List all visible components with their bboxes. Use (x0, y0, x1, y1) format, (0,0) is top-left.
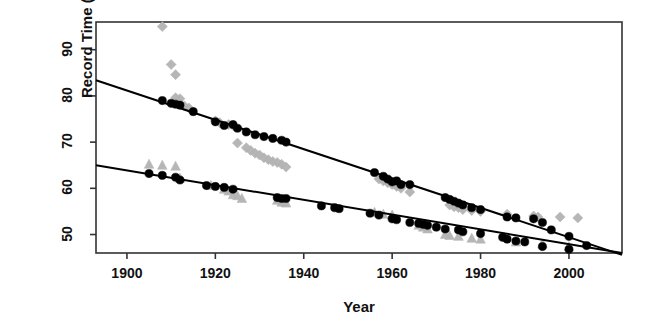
data-point-record (459, 228, 467, 236)
data-point-record (233, 124, 241, 132)
data-point-record (189, 108, 197, 116)
y-axis-tick-label: 80 (59, 80, 75, 110)
data-point-record (176, 176, 184, 184)
data-point-record (468, 204, 476, 212)
y-axis-tick-label: 60 (59, 172, 75, 202)
data-point-triangle (158, 160, 168, 169)
data-point-record (269, 134, 277, 142)
data-point-record (441, 225, 449, 233)
data-point-record (375, 211, 383, 219)
data-point-record (260, 132, 268, 140)
data-point-record (547, 226, 555, 234)
data-point-record (145, 169, 153, 177)
data-point-record (282, 194, 290, 202)
y-axis-label-container: Record Time (secs) (22, 20, 40, 250)
data-point-record (220, 121, 228, 129)
y-axis-label: Record Time (secs) (78, 0, 96, 154)
data-point-record (176, 101, 184, 109)
y-axis-tick-label: 90 (59, 34, 75, 64)
data-point-record (282, 138, 290, 146)
data-point-diamond (232, 138, 242, 148)
data-point-record (392, 216, 400, 224)
data-point-record (565, 232, 573, 240)
data-point-diamond (166, 60, 176, 70)
x-axis-tick-label: 1960 (362, 265, 422, 281)
data-point-diamond (573, 213, 583, 223)
data-point-record (521, 238, 529, 246)
x-axis-tick-label: 1980 (451, 265, 511, 281)
data-point-record (459, 201, 467, 209)
chart-figure: Record Time (secs) Year 5060708090 19001… (0, 0, 653, 329)
data-point-record (335, 205, 343, 213)
data-point-triangle (144, 159, 154, 168)
x-axis-tick-label: 2000 (539, 265, 599, 281)
data-point-record (529, 215, 537, 223)
data-point-record (229, 185, 237, 193)
data-point-record (242, 128, 250, 136)
y-axis-tick-label: 50 (59, 219, 75, 249)
x-axis-label: Year (96, 298, 622, 315)
data-point-record (406, 218, 414, 226)
x-axis-tick-label: 1900 (97, 265, 157, 281)
x-axis-tick-label: 1920 (185, 265, 245, 281)
data-point-record (202, 181, 210, 189)
data-point-record (583, 242, 591, 250)
data-point-record (476, 229, 484, 237)
data-point-record (512, 237, 520, 245)
data-point-diamond (171, 70, 181, 80)
data-point-record (565, 245, 573, 253)
data-point-record (220, 183, 228, 191)
y-axis-tick-label: 70 (59, 126, 75, 156)
data-point-record (251, 131, 259, 139)
data-point-record (158, 96, 166, 104)
data-point-record (211, 182, 219, 190)
data-point-record (538, 242, 546, 250)
data-point-record (397, 181, 405, 189)
data-point-record (423, 221, 431, 229)
data-point-record (366, 209, 374, 217)
x-axis-tick-label: 1940 (274, 265, 334, 281)
data-point-record (211, 118, 219, 126)
data-point-record (476, 205, 484, 213)
data-point-record (158, 171, 166, 179)
data-point-triangle (171, 161, 181, 170)
data-point-record (370, 169, 378, 177)
data-point-record (512, 214, 520, 222)
data-point-record (503, 213, 511, 221)
data-point-diamond (555, 212, 565, 222)
data-point-record (432, 223, 440, 231)
data-point-diamond (157, 22, 167, 32)
data-point-record (317, 202, 325, 210)
data-point-record (538, 218, 546, 226)
data-point-record (503, 235, 511, 243)
data-point-triangle (467, 233, 477, 242)
data-point-record (406, 181, 414, 189)
